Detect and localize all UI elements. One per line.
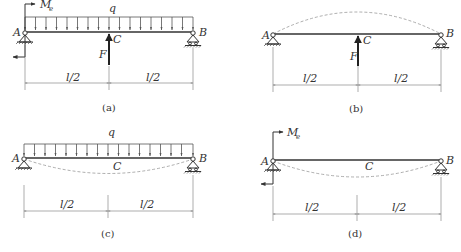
label-A: A	[261, 29, 270, 42]
label-q: q	[109, 2, 116, 15]
dim-left-label: l/2	[303, 72, 317, 85]
deflection-curve	[24, 159, 193, 174]
beam-diagrams: q M e A B C F	[0, 0, 461, 252]
dim-left-label: l/2	[305, 201, 319, 214]
panel-a: q M e A B C F	[12, 0, 207, 113]
panel-d: M e A B C l/2 l/2 (d)	[260, 126, 454, 239]
label-B: B	[198, 26, 207, 39]
caption-a: (a)	[102, 102, 116, 113]
label-C: C	[363, 34, 372, 47]
label-Me-sub: e	[296, 133, 300, 141]
label-B: B	[198, 152, 207, 165]
label-q: q	[108, 126, 115, 139]
caption-d: (d)	[348, 228, 362, 239]
label-A: A	[11, 152, 20, 165]
label-B: B	[445, 27, 454, 40]
deflection-curve	[273, 161, 441, 177]
panel-b: A B C F l/2 l/2 (b)	[261, 12, 454, 114]
dimension-lines	[24, 175, 193, 218]
dim-left-label: l/2	[60, 198, 74, 211]
dim-right-label: l/2	[394, 72, 408, 85]
distributed-load-q	[24, 144, 193, 156]
distributed-load-q	[25, 17, 193, 30]
label-B: B	[445, 154, 454, 167]
dim-right-label: l/2	[392, 201, 406, 214]
dim-left-label: l/2	[66, 71, 80, 84]
label-C: C	[113, 160, 122, 173]
caption-b: (b)	[349, 103, 363, 114]
label-C: C	[365, 160, 374, 173]
panel-c: q A B C l/2 l/2 (c)	[11, 126, 207, 239]
dim-right-label: l/2	[146, 71, 160, 84]
label-A: A	[12, 26, 21, 39]
label-F: F	[349, 50, 358, 63]
dim-right-label: l/2	[140, 198, 154, 211]
dimension-lines	[273, 177, 441, 221]
label-Me-sub: e	[49, 5, 53, 13]
deflection-curve	[273, 12, 441, 34]
label-A: A	[260, 155, 269, 168]
label-C: C	[113, 33, 122, 46]
caption-c: (c)	[101, 228, 115, 239]
label-F: F	[98, 48, 107, 61]
